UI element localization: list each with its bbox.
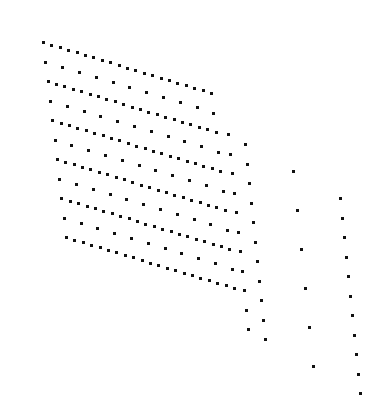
dense-row-dot (124, 254, 127, 257)
sparse-row-dot (138, 164, 141, 167)
dense-row-dot (134, 69, 137, 72)
dense-row-dot (65, 236, 68, 239)
sparse-row-dot (176, 213, 179, 216)
dense-row-dot (148, 186, 151, 189)
dense-row-dot (68, 124, 71, 127)
col-d-dot (349, 295, 352, 298)
col-a-dot (227, 133, 230, 136)
col-b-dot (256, 260, 259, 263)
dense-row-dot (198, 126, 201, 129)
col-c-dot (304, 287, 307, 290)
dense-row-dot (173, 194, 176, 197)
sparse-row-dot (226, 229, 229, 232)
dense-row-dot (177, 157, 180, 160)
dense-row-dot (51, 119, 54, 122)
dense-row-dot (119, 215, 122, 218)
dense-row-dot (174, 269, 177, 272)
dense-row-dot (216, 282, 219, 285)
dense-row-dot (90, 244, 93, 247)
dense-row-dot (193, 87, 196, 90)
dense-row-dot (168, 79, 171, 82)
sparse-row-dot (104, 154, 107, 157)
sparse-row-dot (125, 198, 128, 201)
col-d-dot (359, 392, 362, 395)
dense-row-dot (127, 142, 130, 145)
sparse-row-dot (179, 101, 182, 104)
sparse-row-dot (196, 106, 199, 109)
dense-row-dot (76, 127, 79, 130)
dense-row-dot (118, 139, 121, 142)
dense-row-dot (109, 61, 112, 64)
sparse-row-dot (222, 190, 225, 193)
col-b-dot (260, 299, 263, 302)
col-b-dot (264, 338, 267, 341)
dense-row-dot (183, 272, 186, 275)
dense-row-dot (69, 200, 72, 203)
sparse-row-dot (78, 71, 81, 74)
dense-row-dot (190, 199, 193, 202)
dense-row-dot (105, 98, 108, 101)
col-d-dot (353, 334, 356, 337)
dense-row-dot (228, 248, 231, 251)
dense-row-dot (114, 100, 117, 103)
dense-row-dot (139, 108, 142, 111)
sparse-row-dot (150, 130, 153, 133)
dense-row-dot (141, 259, 144, 262)
dense-row-dot (157, 264, 160, 267)
dense-row-dot (160, 152, 163, 155)
dense-row-dot (82, 241, 85, 244)
dense-row-dot (225, 284, 228, 287)
sparse-row-dot (142, 203, 145, 206)
dense-row-dot (156, 113, 159, 116)
sparse-row-dot (188, 179, 191, 182)
sparse-row-dot (212, 112, 215, 115)
sparse-row-dot (130, 237, 133, 240)
sparse-row-dot (164, 247, 167, 250)
sparse-row-dot (99, 115, 102, 118)
col-a-dot (231, 172, 234, 175)
dense-row-dot (64, 161, 67, 164)
dense-row-dot (106, 173, 109, 176)
col-b-dot (254, 241, 257, 244)
sparse-row-dot (83, 110, 86, 113)
dense-row-dot (181, 121, 184, 124)
sparse-row-dot (197, 257, 200, 260)
dense-row-dot (176, 82, 179, 85)
dense-row-dot (102, 210, 105, 213)
dense-row-dot (224, 209, 227, 212)
dense-row-dot (136, 220, 139, 223)
dense-row-dot (131, 106, 134, 109)
dense-row-dot (123, 178, 126, 181)
dense-row-dot (97, 95, 100, 98)
dense-row-dot (135, 145, 138, 148)
dense-row-dot (128, 217, 131, 220)
dense-row-dot (86, 205, 89, 208)
sparse-row-dot (116, 120, 119, 123)
dense-row-dot (199, 201, 202, 204)
sparse-row-dot (96, 227, 99, 230)
dense-row-dot (164, 116, 167, 119)
sparse-row-dot (95, 76, 98, 79)
dense-row-dot (189, 123, 192, 126)
dense-row-dot (170, 230, 173, 233)
sparse-row-dot (54, 139, 57, 142)
sparse-row-dot (217, 151, 220, 154)
col-d-dot (339, 197, 342, 200)
dense-row-dot (110, 137, 113, 140)
col-d-dot (357, 373, 360, 376)
dense-row-dot (149, 262, 152, 265)
dense-row-dot (143, 72, 146, 75)
dense-row-dot (107, 249, 110, 252)
col-d-dot (341, 217, 344, 220)
sparse-row-dot (75, 183, 78, 186)
dense-row-dot (220, 245, 223, 248)
dense-row-dot (101, 59, 104, 62)
sparse-row-dot (154, 169, 157, 172)
dense-row-dot (50, 44, 53, 47)
dense-row-dot (115, 251, 118, 254)
dense-row-dot (191, 274, 194, 277)
dense-row-dot (118, 64, 121, 67)
dense-row-dot (203, 240, 206, 243)
col-c-dot (292, 170, 295, 173)
dense-row-dot (73, 239, 76, 242)
